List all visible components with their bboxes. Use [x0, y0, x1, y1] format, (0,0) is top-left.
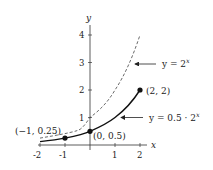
point-2-2: [137, 87, 142, 92]
svg-text:2: 2: [137, 150, 142, 160]
svg-text:-1: -1: [59, 150, 67, 160]
svg-text:-2: -2: [33, 150, 41, 160]
x-axis-label: x: [151, 140, 156, 150]
svg-text:4: 4: [79, 30, 84, 40]
label-2-2: (2, 2): [146, 86, 170, 96]
svg-text:3: 3: [79, 58, 84, 68]
y-axis-label: y: [85, 13, 92, 23]
svg-text:2: 2: [79, 85, 84, 95]
exponential-chart: x y -2 -1 1 2 1 2 3 4 (−1, 0.25) (0, 0.5…: [0, 0, 213, 170]
label-neg1-025: (−1, 0.25): [15, 126, 61, 136]
annotation-half-2-pow-x: y = 0.5 · 2x: [148, 111, 200, 123]
svg-text:1: 1: [112, 150, 117, 160]
annotation-2-pow-x: y = 2x: [161, 57, 190, 69]
point-neg1-025: [62, 136, 67, 141]
svg-text:1: 1: [79, 113, 84, 123]
label-0-05: (0, 0.5): [93, 131, 126, 141]
x-ticks: -2 -1 1 2: [33, 143, 142, 160]
point-0-05: [87, 129, 92, 134]
